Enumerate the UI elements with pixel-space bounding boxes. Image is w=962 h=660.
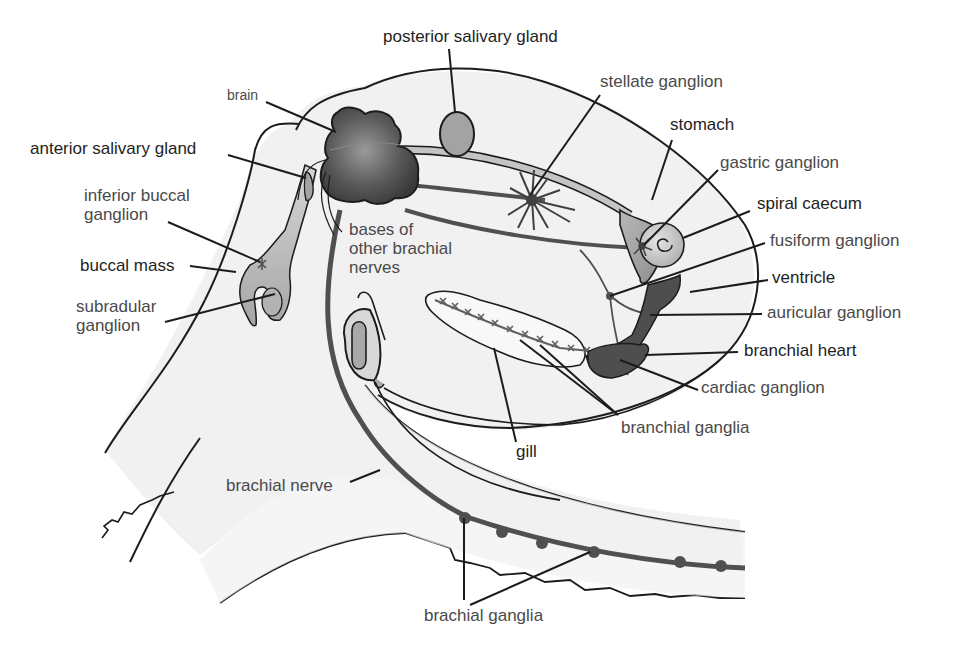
label-fusiform-ganglion: fusiform ganglion (770, 231, 899, 250)
label-inferior-buccal-ganglion: inferior buccal ganglion (84, 186, 190, 224)
label-auricular-ganglion: auricular ganglion (767, 303, 901, 322)
label-gastric-ganglion: gastric ganglion (720, 153, 839, 172)
label-brain: brain (227, 88, 258, 104)
label-subradular-ganglion: subradular ganglion (76, 297, 156, 335)
label-stomach: stomach (670, 115, 734, 134)
octopus-nervous-system-diagram: posterior salivary gland brain stellate … (0, 0, 962, 660)
label-branchial-heart: branchial heart (744, 341, 856, 360)
label-branchial-ganglia: branchial ganglia (621, 418, 750, 437)
posterior-salivary-gland (440, 112, 474, 156)
label-gill: gill (516, 442, 537, 461)
spiral-caecum (640, 223, 684, 267)
label-posterior-salivary-gland: posterior salivary gland (383, 27, 558, 46)
label-stellate-ganglion: stellate ganglion (600, 72, 723, 91)
label-cardiac-ganglion: cardiac ganglion (701, 378, 825, 397)
label-spiral-caecum: spiral caecum (757, 194, 862, 213)
label-ventricle: ventricle (772, 268, 835, 287)
label-buccal-mass: buccal mass (80, 256, 174, 275)
label-brachial-nerve: brachial nerve (226, 476, 333, 495)
label-bases-of-other-brachial-nerves: bases of other brachial nerves (349, 220, 452, 277)
label-brachial-ganglia: brachial ganglia (424, 606, 543, 625)
label-anterior-salivary-gland: anterior salivary gland (30, 139, 196, 158)
